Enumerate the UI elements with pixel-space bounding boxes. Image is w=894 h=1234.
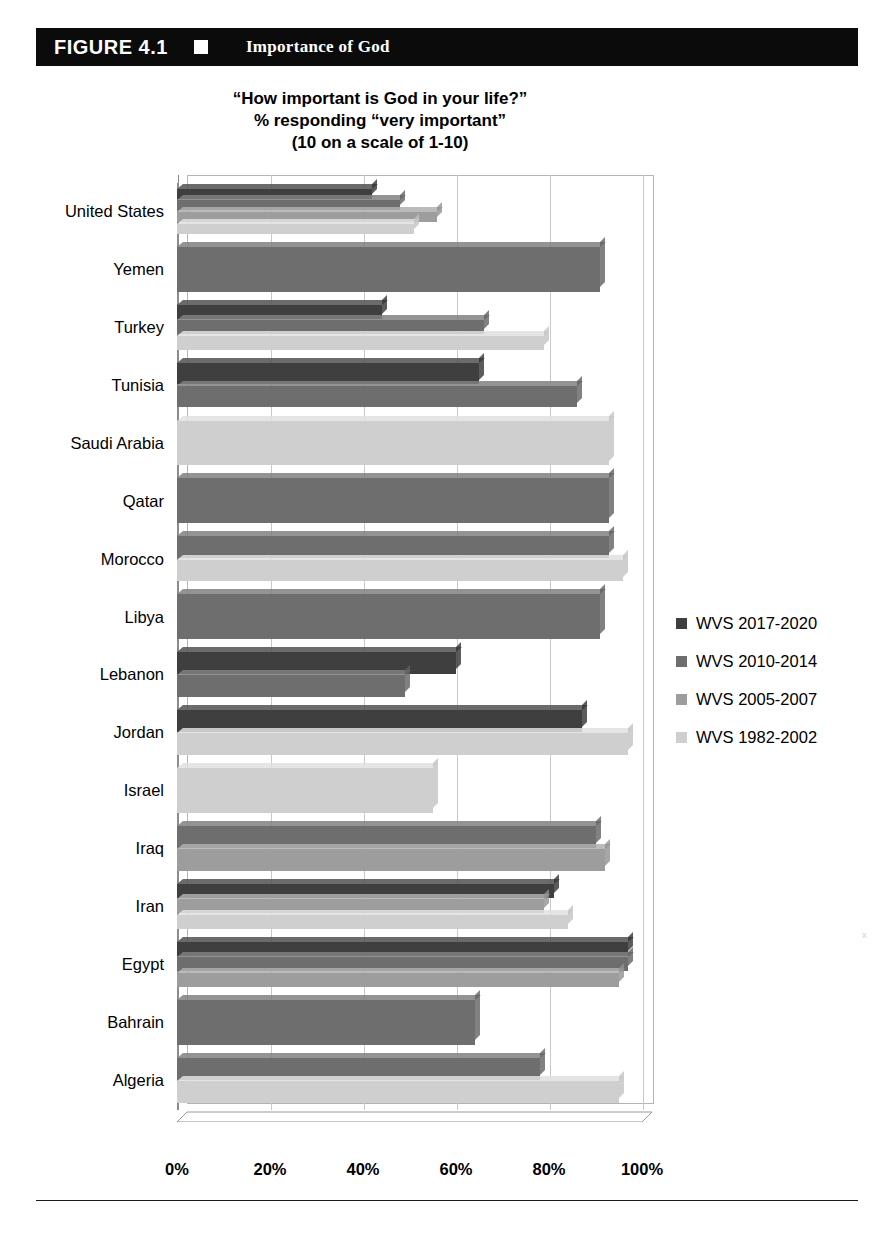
bar-side-face	[600, 237, 605, 287]
bar-side-face	[609, 411, 614, 461]
bar-top-face	[177, 531, 615, 536]
x-tick-label: 100%	[621, 1160, 663, 1179]
category-label-iran: Iran	[0, 897, 168, 915]
bar-body	[177, 768, 433, 813]
bar-side-face	[433, 758, 438, 808]
legend-swatch-icon	[676, 618, 687, 629]
bar-body	[177, 386, 577, 408]
category-label-yemen: Yemen	[0, 260, 168, 278]
bar-body	[177, 675, 405, 697]
bar-body	[177, 247, 600, 292]
category-label-qatar: Qatar	[0, 492, 168, 510]
bar-iran-wvs-1982-2002	[177, 915, 568, 929]
x-tick-label: 80%	[532, 1160, 565, 1179]
bar-top-face	[177, 968, 625, 973]
bar-side-face	[405, 665, 410, 692]
bar-side-face	[544, 326, 549, 345]
bar-side-face	[400, 190, 405, 205]
bar-lebanon-wvs-2010-2014	[177, 675, 405, 697]
x-tick-label: 0%	[165, 1160, 189, 1179]
bar-side-face	[596, 816, 601, 843]
bar-algeria-wvs-1982-2002	[177, 1081, 619, 1103]
bar-side-face	[479, 353, 484, 380]
category-label-morocco: Morocco	[0, 550, 168, 568]
bar-top-face	[177, 207, 443, 212]
bar-egypt-wvs-2005-2007	[177, 973, 619, 987]
bar-qatar-wvs-2010-2014	[177, 478, 609, 523]
bar-top-face	[177, 670, 411, 675]
bar-body	[177, 1081, 619, 1103]
bar-side-face	[623, 550, 628, 577]
bar-side-face	[456, 642, 461, 669]
category-label-iraq: Iraq	[0, 839, 168, 857]
bar-top-face	[177, 242, 606, 247]
bar-body	[177, 915, 568, 929]
bar-top-face	[177, 910, 574, 915]
bar-yemen-wvs-2010-2014	[177, 247, 600, 292]
category-label-tunisia: Tunisia	[0, 376, 168, 394]
bar-side-face	[568, 905, 573, 924]
gridline-100	[643, 175, 644, 1110]
category-label-israel: Israel	[0, 781, 168, 799]
bar-top-face	[177, 195, 406, 200]
category-label-jordan: Jordan	[0, 723, 168, 741]
bar-body	[177, 560, 623, 582]
bar-top-face	[177, 821, 601, 826]
bar-side-face	[544, 889, 549, 908]
legend-label: WVS 2010-2014	[696, 652, 817, 671]
bar-bahrain-wvs-2010-2014	[177, 1000, 475, 1045]
x-tick-label: 60%	[439, 1160, 472, 1179]
legend-item-1[interactable]: WVS 2010-2014	[676, 652, 886, 671]
bar-top-face	[177, 763, 439, 768]
legend-label: WVS 2005-2007	[696, 690, 817, 709]
bar-side-face	[484, 310, 489, 329]
bar-jordan-wvs-1982-2002	[177, 733, 628, 755]
bar-top-face	[177, 705, 588, 710]
bar-side-face	[609, 526, 614, 553]
category-label-algeria: Algeria	[0, 1071, 168, 1089]
bottom-rule	[36, 1200, 858, 1201]
bar-body	[177, 421, 609, 466]
bar-turkey-wvs-1982-2002	[177, 336, 544, 350]
bar-side-face	[577, 376, 582, 403]
chart-title-line-1: “How important is God in your life?”	[0, 88, 760, 110]
legend-item-3[interactable]: WVS 1982-2002	[676, 728, 886, 747]
category-label-turkey: Turkey	[0, 318, 168, 336]
bar-side-face	[605, 839, 610, 866]
category-label-saudi-arabia: Saudi Arabia	[0, 434, 168, 452]
bar-top-face	[177, 995, 481, 1000]
bar-side-face	[437, 202, 442, 217]
bar-top-face	[177, 728, 634, 733]
legend-label: WVS 1982-2002	[696, 728, 817, 747]
legend-label: WVS 2017-2020	[696, 614, 817, 633]
bar-top-face	[177, 879, 560, 884]
bar-side-face	[372, 179, 377, 194]
x-tick-label: 20%	[253, 1160, 286, 1179]
legend-swatch-icon	[676, 656, 687, 667]
chart-title: “How important is God in your life?” % r…	[0, 88, 760, 154]
legend-item-2[interactable]: WVS 2005-2007	[676, 690, 886, 709]
bar-top-face	[177, 894, 550, 899]
bar-top-face	[177, 219, 420, 224]
bar-top-face	[177, 300, 388, 305]
x-axis: 0%20%40%60%80%100%	[177, 1160, 642, 1186]
bar-iraq-wvs-2005-2007	[177, 849, 605, 871]
bar-top-face	[177, 952, 634, 957]
bar-side-face	[619, 963, 624, 982]
bar-libya-wvs-2010-2014	[177, 594, 600, 639]
bar-top-face	[177, 1053, 546, 1058]
bar-body	[177, 733, 628, 755]
bar-israel-wvs-1982-2002	[177, 768, 433, 813]
figure-page: FIGURE 4.1 Importance of God “How import…	[0, 0, 894, 1234]
bar-side-face	[609, 468, 614, 518]
bar-body	[177, 224, 414, 234]
bar-body	[177, 478, 609, 523]
bar-top-face	[177, 844, 611, 849]
bar-side-face	[582, 700, 587, 727]
x-tick-label: 40%	[346, 1160, 379, 1179]
legend-item-0[interactable]: WVS 2017-2020	[676, 614, 886, 633]
bar-top-face	[177, 555, 629, 560]
bar-side-face	[600, 584, 605, 634]
bar-top-face	[177, 315, 490, 320]
bar-side-face	[554, 874, 559, 893]
